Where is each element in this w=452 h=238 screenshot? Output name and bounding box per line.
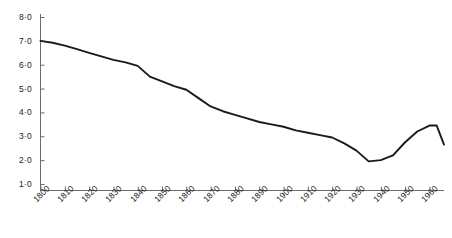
y-tick-label: 6·0 (6, 60, 32, 70)
y-tick-label: 5·0 (6, 84, 32, 94)
line-chart: 8·07·06·05·04·03·02·01·0 180018101820183… (0, 0, 452, 238)
axis-lines (41, 14, 445, 191)
chart-plot-area (0, 0, 452, 238)
data-series-line (41, 41, 445, 161)
y-axis-ticks (41, 18, 45, 185)
y-tick-label: 7·0 (6, 36, 32, 46)
y-tick-label: 8·0 (6, 12, 32, 22)
y-tick-label: 2·0 (6, 155, 32, 165)
y-tick-label: 1·0 (6, 179, 32, 189)
y-tick-label: 3·0 (6, 131, 32, 141)
y-tick-label: 4·0 (6, 107, 32, 117)
